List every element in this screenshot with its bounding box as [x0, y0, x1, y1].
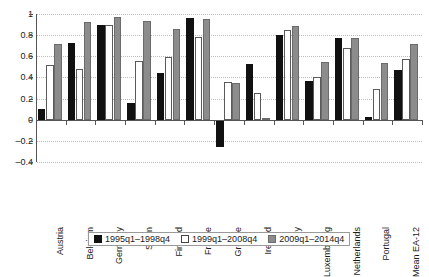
- bar: [284, 30, 292, 120]
- bar: [157, 73, 165, 120]
- bar: [313, 77, 321, 119]
- bar: [246, 64, 254, 120]
- bar-group: [125, 14, 155, 162]
- y-axis-labels: 10.80.60.40.20–0.2–0.4: [0, 14, 33, 162]
- zero-axis-line: [36, 120, 422, 121]
- legend-swatch-icon: [181, 235, 189, 243]
- y-axis-tick-mark: [29, 35, 33, 36]
- bar: [54, 44, 62, 120]
- bar: [394, 70, 402, 120]
- plot-area: [36, 14, 422, 162]
- x-axis-category-label: Netherlands: [352, 227, 362, 276]
- bar: [135, 61, 143, 120]
- bar: [410, 44, 418, 120]
- bar: [186, 18, 194, 119]
- bar-group: [155, 14, 185, 162]
- legend-label: 1995q1–1998q4: [105, 235, 170, 244]
- bar: [343, 48, 351, 120]
- bar: [351, 38, 359, 119]
- legend-label: 2009q1–2014q4: [279, 235, 344, 244]
- y-axis-tick-mark: [29, 14, 33, 15]
- bar-group: [392, 14, 422, 162]
- bar: [305, 81, 313, 120]
- bar: [105, 25, 113, 120]
- bar: [114, 17, 122, 120]
- y-axis-tick-mark: [29, 99, 33, 100]
- bar-group: [214, 14, 244, 162]
- bar: [68, 43, 76, 120]
- x-axis-category-labels: AustriaBelgiumGermanySpainFinlandFranceG…: [36, 163, 422, 229]
- bar-group: [363, 14, 393, 162]
- bar: [373, 89, 381, 120]
- bar: [38, 109, 46, 120]
- bar: [84, 22, 92, 119]
- bar: [224, 82, 232, 120]
- x-axis-category-label: Austria: [55, 227, 65, 255]
- bar: [46, 65, 54, 120]
- y-axis-tick-mark: [29, 162, 33, 163]
- y-axis-tick-mark: [29, 56, 33, 57]
- legend-label: 1999q1–2008q4: [192, 235, 257, 244]
- legend-item: 1999q1–2008q4: [181, 235, 257, 244]
- y-axis-tick-mark: [29, 141, 33, 142]
- bar: [254, 93, 262, 119]
- chart-legend: 1995q1–1998q41999q1–2008q42009q1–2014q4: [88, 232, 350, 246]
- bar: [321, 62, 329, 120]
- legend-item: 1995q1–1998q4: [94, 235, 170, 244]
- x-axis-category-label: Portugal: [381, 227, 391, 261]
- bar: [127, 103, 135, 120]
- bar: [173, 29, 181, 120]
- bar-group: [36, 14, 66, 162]
- bar: [195, 37, 203, 119]
- bar: [143, 21, 151, 119]
- bar-group: [274, 14, 304, 162]
- bar: [335, 38, 343, 119]
- bar-group: [303, 14, 333, 162]
- bar: [402, 59, 410, 119]
- bar: [381, 63, 389, 120]
- bar: [276, 35, 284, 120]
- bar-group: [244, 14, 274, 162]
- legend-swatch-icon: [268, 235, 276, 243]
- bar: [292, 26, 300, 120]
- bar-group: [66, 14, 96, 162]
- bar-groups: [36, 14, 422, 162]
- bar-group: [95, 14, 125, 162]
- y-axis-tick-mark: [29, 120, 33, 121]
- bar: [76, 69, 84, 120]
- legend-item: 2009q1–2014q4: [268, 235, 344, 244]
- bar: [97, 25, 105, 120]
- legend-swatch-icon: [94, 235, 102, 243]
- bar: [216, 120, 224, 147]
- x-axis-tick-mark: [422, 120, 423, 125]
- x-axis-category-label: Mean EA-12: [411, 227, 421, 277]
- bar-group: [184, 14, 214, 162]
- bar: [232, 83, 240, 120]
- y-axis-tick-mark: [29, 77, 33, 78]
- bar-group: [333, 14, 363, 162]
- bar: [203, 19, 211, 119]
- bar: [165, 57, 173, 119]
